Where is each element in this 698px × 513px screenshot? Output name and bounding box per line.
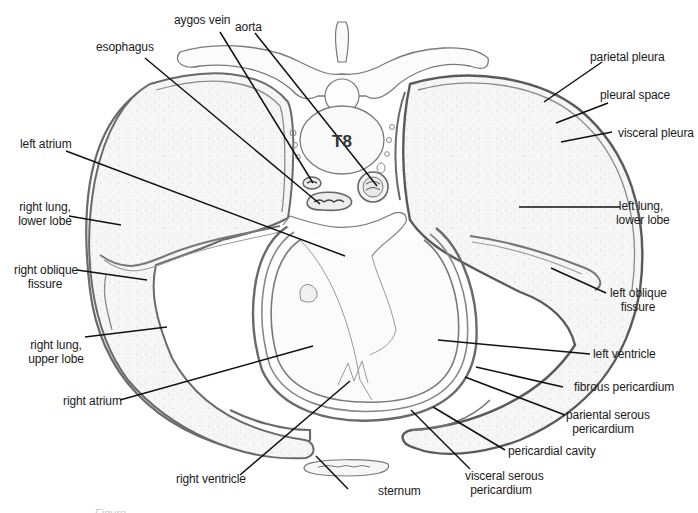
label-right-oblique-fissure: right oblique fissure (14, 263, 76, 291)
label-line-1: right oblique (14, 263, 76, 277)
label-right-ventricle: right ventricle (176, 472, 246, 486)
label-line-1: visceral serous (465, 469, 537, 483)
label-visceral-pleura: visceral pleura (618, 126, 694, 140)
label-visceral-serous-pericardium: visceral serous pericardium (465, 469, 537, 497)
label-line-2: lower lobe (616, 213, 666, 227)
label-line-1: right lung, (28, 338, 84, 352)
label-pleural-space: pleural space (600, 88, 670, 102)
label-left-oblique-fissure: left oblique fissure (610, 286, 666, 314)
label-line-2: pericardium (465, 483, 537, 497)
label-line-2: fissure (14, 277, 76, 291)
label-parietal-pleura: parietal pleura (590, 50, 665, 64)
label-right-lung-upper-lobe: right lung, upper lobe (28, 338, 84, 366)
label-left-lung-lower-lobe: left lung, lower lobe (616, 199, 666, 227)
label-left-atrium: left atrium (20, 137, 72, 151)
label-line-2: upper lobe (28, 352, 84, 366)
label-pariental-serous-pericardium: pariental serous pericardium (566, 408, 640, 436)
label-line-2: lower lobe (15, 214, 75, 228)
label-fibrous-pericardium: fibrous pericardium (574, 380, 674, 394)
label-pericardial-cavity: pericardial cavity (508, 444, 596, 458)
label-line-1: pariental serous (566, 408, 640, 422)
label-line-1: left oblique (610, 286, 666, 300)
sternum-bone (304, 460, 389, 476)
label-left-ventricle: left ventricle (593, 347, 656, 361)
label-right-lung-lower-lobe: right lung, lower lobe (15, 200, 75, 228)
label-line-2: fissure (610, 300, 666, 314)
label-line-2: pericardium (566, 422, 640, 436)
label-aorta: aorta (235, 20, 262, 34)
vertebra-label: T8 (332, 132, 352, 152)
posterior-mediastinum (303, 172, 388, 210)
label-right-atrium: right atrium (63, 394, 122, 408)
thorax-cross-section-diagram: T8 aygos vein aorta esophagus left atriu… (0, 0, 698, 513)
label-esophagus: esophagus (96, 40, 154, 54)
anatomy-drawing (0, 0, 698, 513)
label-aygos-vein: aygos vein (174, 13, 230, 27)
label-line-1: right lung, (15, 200, 75, 214)
label-sternum: sternum (378, 484, 421, 498)
label-line-1: left lung, (616, 199, 666, 213)
figure-caption-fragment: Figure (95, 507, 126, 513)
